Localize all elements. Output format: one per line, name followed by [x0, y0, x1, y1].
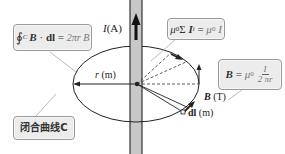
result-b: B	[226, 69, 233, 80]
line-element-label: dl (m)	[188, 108, 213, 118]
closed-curve-label: 闭合曲线C	[20, 123, 67, 133]
result-mu-subscript: 0	[250, 71, 254, 78]
radius-label: r (m)	[95, 70, 116, 80]
closed-curve-label-box: 闭合曲线C	[13, 116, 75, 140]
radius-unit: (m)	[101, 69, 115, 80]
current-i: I	[186, 24, 193, 35]
current-unit: (A)	[107, 22, 122, 34]
formula-b: B	[29, 32, 36, 43]
field-symbol: B	[204, 91, 211, 102]
integral-subscript: C	[23, 34, 28, 41]
dashed-rays	[137, 52, 199, 84]
field-label: B (T)	[204, 92, 226, 102]
field-unit: (T)	[213, 91, 226, 102]
radius-arrowhead	[73, 82, 80, 87]
fraction-denominator: 2 πr	[256, 75, 275, 84]
equals-sign: =	[195, 24, 207, 35]
equals-sign: =	[55, 32, 67, 43]
formula-rhs: 2πr B	[67, 33, 90, 43]
solid-rays	[137, 84, 189, 112]
rhs-current: I	[215, 24, 221, 35]
line-element-symbol: dl	[188, 107, 196, 118]
dl-marker	[181, 110, 185, 114]
result-fraction: I 2 πr	[256, 65, 275, 84]
dot-operator: ·	[37, 32, 46, 43]
integral-sign: ∮	[16, 31, 23, 44]
line-element-unit: (m)	[199, 107, 213, 118]
radius-symbol: r	[95, 69, 99, 80]
enclosed-current-formula-box: μ0 Σ Ii = μ0 I	[167, 18, 225, 40]
equals-sign: =	[233, 69, 245, 80]
formula-dl: dl	[46, 32, 55, 43]
field-result-formula-box: B = μ0 I 2 πr	[218, 59, 282, 90]
line-integral-formula-box: ∮C B · dl = 2πr B	[13, 24, 92, 51]
current-label: I(A)	[103, 23, 122, 34]
